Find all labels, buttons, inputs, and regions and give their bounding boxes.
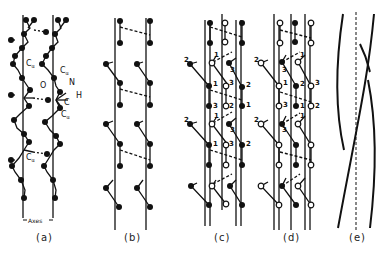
label-nitrogen: N <box>69 78 75 87</box>
panel-label-a: (a) <box>36 232 53 243</box>
svg-text:3: 3 <box>230 66 235 74</box>
strand-1 <box>338 14 345 150</box>
panel-label-b: (b) <box>124 232 141 243</box>
panel-label-c: (c) <box>214 232 230 243</box>
svg-text:3: 3 <box>229 79 234 87</box>
panel-b <box>106 18 150 230</box>
label-carbon: C <box>64 98 70 107</box>
label-c-alpha-3: Cα <box>61 110 71 120</box>
svg-text:1: 1 <box>300 112 305 120</box>
svg-text:1: 1 <box>300 51 305 59</box>
svg-text:3: 3 <box>213 102 218 110</box>
svg-text:1: 1 <box>214 51 219 59</box>
figure-canvas: Cα Cα O N H C Cα Cα Axes <box>0 0 382 256</box>
svg-text:2: 2 <box>184 56 189 64</box>
strand-3b <box>368 80 375 228</box>
panel-e <box>338 12 375 230</box>
svg-text:3: 3 <box>230 126 235 134</box>
svg-text:2: 2 <box>254 56 259 64</box>
label-oxygen: O <box>40 81 46 90</box>
label-axes: Axes <box>28 217 42 224</box>
svg-text:2: 2 <box>229 102 234 110</box>
panel-a <box>10 15 68 218</box>
svg-text:1: 1 <box>213 140 218 148</box>
svg-text:1: 1 <box>283 79 288 87</box>
svg-text:1: 1 <box>213 80 218 88</box>
label-c-alpha-4: Cα <box>26 153 36 163</box>
svg-text:2: 2 <box>246 81 251 89</box>
strand-2 <box>338 14 374 228</box>
label-c-alpha-1: Cα <box>26 59 36 69</box>
svg-text:3: 3 <box>229 140 234 148</box>
svg-text:1: 1 <box>300 102 305 110</box>
svg-text:2: 2 <box>184 116 189 124</box>
label-c-alpha-2: Cα <box>60 66 70 76</box>
svg-text:3: 3 <box>315 79 320 87</box>
panel-d <box>261 14 311 230</box>
label-hydrogen: H <box>76 91 82 100</box>
svg-text:2: 2 <box>254 116 259 124</box>
svg-text:3: 3 <box>282 126 287 134</box>
svg-text:2: 2 <box>246 140 251 148</box>
panel-label-d: (d) <box>283 232 300 243</box>
svg-text:3: 3 <box>282 66 287 74</box>
panel-a-atoms <box>8 17 69 201</box>
svg-text:3: 3 <box>283 101 288 109</box>
panel-c <box>190 14 242 226</box>
panel-label-e: (e) <box>349 232 366 243</box>
svg-text:1: 1 <box>246 101 251 109</box>
svg-text:1: 1 <box>214 112 219 120</box>
svg-text:2: 2 <box>300 80 305 88</box>
svg-text:2: 2 <box>315 102 320 110</box>
